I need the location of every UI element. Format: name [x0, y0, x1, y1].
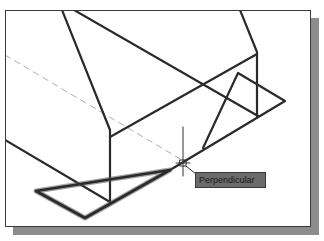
crosshair-cursor [176, 127, 196, 176]
edge-base-right[interactable] [170, 73, 285, 170]
edge-bottom-left[interactable] [5, 140, 110, 202]
selected-triangle[interactable] [36, 170, 170, 218]
edge-top-diagonal[interactable] [74, 10, 258, 116]
snap-tooltip: Perpendicular [195, 172, 266, 188]
selected-triangle-core[interactable] [36, 170, 170, 218]
tracking-line [5, 55, 182, 160]
edge-middle-diagonal[interactable] [110, 54, 257, 137]
drawing-canvas[interactable] [0, 0, 324, 241]
edge-left-vertical[interactable] [62, 10, 110, 202]
